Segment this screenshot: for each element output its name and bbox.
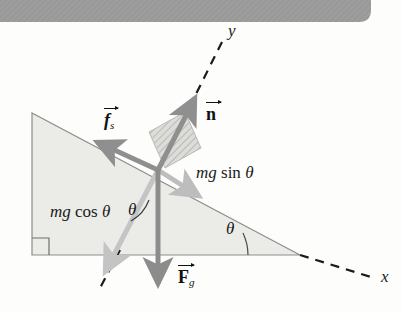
mg-cos-theta-mg: mg [50, 202, 71, 221]
physics-free-body-diagram: y x n f s F g mg sin θ mg cos θ θ θ [0, 0, 402, 312]
vector-arrow-icon [178, 265, 194, 266]
normal-force-label: n [206, 105, 216, 123]
mg-sin-theta-angle: θ [245, 163, 253, 182]
gravitational-force-subscript: g [189, 276, 195, 288]
mg-cos-theta-fn: cos [71, 202, 102, 221]
normal-force-symbol: n [206, 104, 216, 124]
negative-y-axis-dashed [98, 250, 120, 292]
diagram-canvas [0, 0, 402, 312]
vector-arrow-icon [206, 102, 221, 103]
static-friction-label: f s [104, 111, 110, 129]
top-banner [0, 0, 371, 22]
gravitational-force-symbol: F [178, 267, 189, 287]
static-friction-subscript: s [110, 119, 114, 131]
mg-cos-theta-label: mg cos θ [50, 203, 110, 220]
gravitational-force-label: F g [178, 268, 189, 286]
mg-cos-theta-angle: θ [102, 202, 110, 221]
mg-sin-theta-fn: sin [217, 163, 245, 182]
incline-angle-label: θ [226, 220, 234, 237]
x-axis-dashed [300, 255, 374, 278]
y-axis-label: y [228, 22, 236, 39]
block-angle-label: θ [128, 201, 136, 218]
x-axis-label: x [381, 268, 389, 285]
mg-sin-theta-label: mg sin θ [196, 164, 253, 181]
mg-sin-theta-mg: mg [196, 163, 217, 182]
vector-arrow-icon [104, 108, 118, 109]
